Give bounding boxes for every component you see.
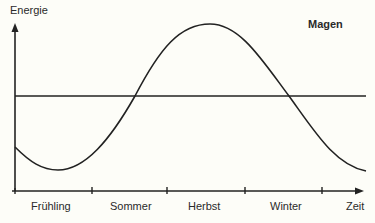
season-label-herbst: Herbst [188,200,220,212]
y-axis-label: Energie [10,4,48,16]
season-label-winter: Winter [270,200,302,212]
season-label-sommer: Sommer [110,200,152,212]
x-axis-arrow-icon [355,188,364,195]
energy-curve [15,24,366,171]
chart-title: Magen [308,18,343,30]
season-label-fruehling: Frühling [31,200,71,212]
x-axis-label: Zeit [346,200,364,212]
chart-canvas [0,0,375,223]
y-axis-arrow-icon [12,23,19,32]
